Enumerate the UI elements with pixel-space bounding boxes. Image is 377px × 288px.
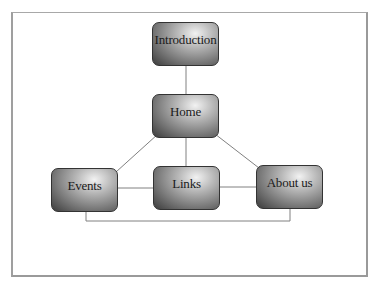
node-events[interactable]: Events: [51, 168, 118, 212]
node-label: Links: [172, 176, 201, 192]
node-label: About us: [267, 175, 313, 191]
edge-home-about: [215, 134, 259, 168]
node-home[interactable]: Home: [152, 94, 219, 138]
node-about-us[interactable]: About us: [256, 165, 323, 209]
node-links[interactable]: Links: [153, 166, 220, 210]
edge-home-events: [116, 134, 158, 172]
node-introduction[interactable]: Introduction: [152, 22, 219, 66]
edge-events-about: [86, 209, 290, 221]
node-label: Events: [67, 178, 101, 194]
node-label: Introduction: [155, 32, 217, 48]
node-label: Home: [170, 104, 201, 120]
